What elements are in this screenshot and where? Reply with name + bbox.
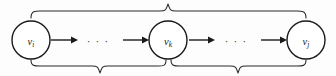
graph-path-figure: · · · · · · vi vk vj [0, 0, 336, 76]
node-vk[interactable]: vk [149, 21, 187, 59]
brace-bottom-right [171, 60, 306, 73]
brace-top-full-path [31, 4, 306, 18]
brace-bottom-left [31, 60, 166, 73]
brace-bottom-left-path [31, 60, 166, 73]
brace-top-full [31, 4, 306, 18]
arrow-vk-out-head [208, 36, 215, 43]
edge-vi-to-ellipsis-left [51, 36, 78, 43]
brace-bottom-right-path [171, 60, 306, 73]
edge-ellipsis-right-to-vj [261, 36, 287, 43]
figure-canvas: · · · · · · vi vk vj [0, 0, 336, 76]
arrow-vi-out-head [71, 36, 78, 43]
node-vi[interactable]: vi [12, 21, 50, 59]
node-vj[interactable]: vj [287, 21, 325, 59]
edge-ellipsis-left-to-vk [123, 36, 149, 43]
edge-vk-to-ellipsis-right [189, 36, 215, 43]
ellipsis-right: · · · [225, 35, 248, 47]
arrow-vk-in-head [142, 36, 149, 43]
node-vj-subscript: j [306, 39, 309, 48]
node-vi-subscript: i [32, 39, 34, 48]
arrow-vj-in-head [280, 36, 287, 43]
ellipsis-left: · · · [87, 35, 110, 47]
